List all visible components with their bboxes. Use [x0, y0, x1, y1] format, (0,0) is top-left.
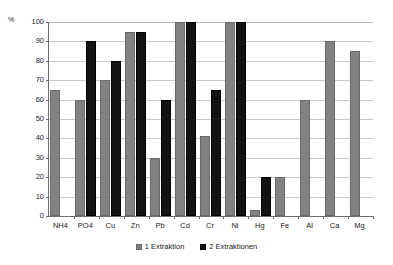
y-axis-labels: 0102030405060708090100 [0, 0, 44, 265]
bar-group [125, 22, 147, 216]
x-axis-tick [99, 216, 100, 219]
y-axis-tick-label: 30 [22, 154, 44, 162]
x-axis-tick [273, 216, 274, 219]
legend-label: 2 Extraktionen [209, 243, 257, 251]
bar-series-2 [186, 22, 196, 216]
bar-group [250, 22, 272, 216]
x-axis-tick [223, 216, 224, 219]
bar-group [300, 22, 322, 216]
chart-legend: 1 Extraktion2 Extraktionen [0, 243, 393, 251]
bar-series-2 [86, 41, 96, 216]
x-axis-tick [373, 216, 374, 219]
bar-series-1 [325, 41, 335, 216]
bar-group [50, 22, 72, 216]
y-axis-tick-label: 80 [22, 57, 44, 65]
y-axis-tick [46, 41, 49, 42]
bar-series-1 [175, 22, 185, 216]
y-axis-tick [46, 119, 49, 120]
bar-series-2 [161, 100, 171, 216]
bar-group [350, 22, 372, 216]
y-axis-tick [46, 61, 49, 62]
y-axis-tick-label: 20 [22, 173, 44, 181]
bar-chart: % 0102030405060708090100 1 Extraktion2 E… [0, 0, 393, 265]
y-axis-tick-label: 100 [22, 18, 44, 26]
x-axis-tick [124, 216, 125, 219]
bar-group [225, 22, 247, 216]
bar-series-2 [136, 32, 146, 216]
x-axis-tick [199, 216, 200, 219]
legend-swatch-black-icon [200, 244, 206, 250]
x-axis-tick [149, 216, 150, 219]
legend-swatch-gray-icon [136, 244, 142, 250]
bar-series-1 [150, 158, 160, 216]
bar-series-1 [225, 22, 235, 216]
x-axis-tick [298, 216, 299, 219]
y-axis-tick [46, 100, 49, 101]
y-axis-tick-label: 40 [22, 135, 44, 143]
x-axis-tick [348, 216, 349, 219]
bar-series-1 [50, 90, 60, 216]
bar-group [75, 22, 97, 216]
y-axis-tick [46, 138, 49, 139]
bar-group [175, 22, 197, 216]
bar-group [150, 22, 172, 216]
plot-area [48, 22, 373, 217]
y-axis-tick-label: 90 [22, 38, 44, 46]
bar-series-2 [236, 22, 246, 216]
bar-series-1 [350, 51, 360, 216]
bar-group [200, 22, 222, 216]
y-axis-tick [46, 22, 49, 23]
y-axis-tick-label: 50 [22, 115, 44, 123]
bar-group [275, 22, 297, 216]
y-axis-tick-label: 10 [22, 193, 44, 201]
bar-series-1 [75, 100, 85, 216]
bar-series-2 [261, 177, 271, 216]
y-axis-tick [46, 80, 49, 81]
y-axis-tick [46, 197, 49, 198]
y-axis-tick [46, 158, 49, 159]
x-axis-tick [323, 216, 324, 219]
y-axis-tick [46, 177, 49, 178]
y-axis-tick-label: 0 [22, 212, 44, 220]
legend-label: 1 Extraktion [145, 243, 185, 251]
bar-series-1 [125, 32, 135, 216]
y-axis-tick-label: 70 [22, 76, 44, 84]
bar-series-1 [100, 80, 110, 216]
x-axis-tick [74, 216, 75, 219]
bar-series-2 [111, 61, 121, 216]
legend-item: 2 Extraktionen [200, 243, 257, 251]
x-axis-tick [174, 216, 175, 219]
y-axis-tick [46, 216, 49, 217]
y-axis-tick-label: 60 [22, 96, 44, 104]
legend-item: 1 Extraktion [136, 243, 185, 251]
bar-series-1 [300, 100, 310, 216]
x-axis-label-mg: Mg [343, 222, 377, 230]
bar-group [100, 22, 122, 216]
x-axis-tick [248, 216, 249, 219]
bar-series-1 [275, 177, 285, 216]
bar-series-1 [200, 136, 210, 216]
bar-series-2 [211, 90, 221, 216]
bar-series-1 [250, 210, 260, 216]
bar-group [325, 22, 347, 216]
